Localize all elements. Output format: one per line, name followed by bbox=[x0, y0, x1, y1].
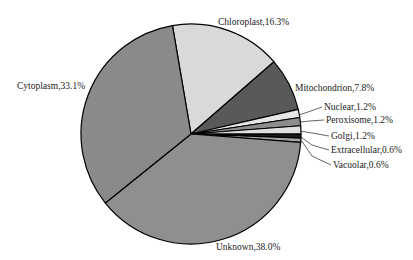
leader-nuclear bbox=[299, 107, 322, 115]
leader-golgi bbox=[300, 131, 329, 136]
label-nuclear: Nuclear,1.2% bbox=[324, 102, 376, 112]
leader-vacuolar bbox=[301, 140, 331, 165]
label-vacuolar: Vacuolar,0.6% bbox=[333, 160, 389, 170]
label-mitochondrion: Mitochondrion,7.8% bbox=[295, 83, 374, 93]
label-golgi: Golgi,1.2% bbox=[331, 131, 375, 141]
label-chloroplast: Chloroplast,16.3% bbox=[218, 17, 289, 27]
pie-chart: Chloroplast,16.3%Mitochondrion,7.8%Nucle… bbox=[0, 0, 413, 260]
label-cytoplasm: Cytoplasm,33.1% bbox=[17, 81, 85, 91]
label-extracellular: Extracellular,0.6% bbox=[331, 145, 402, 155]
leader-extracellular bbox=[301, 137, 329, 150]
leader-peroxisome bbox=[300, 120, 324, 122]
label-peroxisome: Peroxisome,1.2% bbox=[326, 115, 393, 125]
label-unknown: Unknown,38.0% bbox=[216, 242, 280, 252]
pie-slices bbox=[81, 24, 301, 244]
